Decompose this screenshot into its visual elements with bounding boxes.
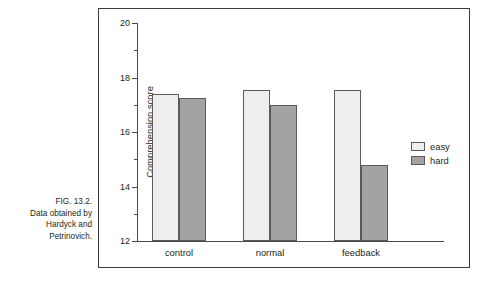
category-label-feedback: feedback [342,247,380,258]
legend-entry-easy: easy [411,141,450,152]
y-tick-label: 20 [120,18,130,28]
y-tick-label: 18 [120,73,130,83]
category-label-control: control [165,247,193,258]
y-tick-label: 12 [120,236,130,246]
y-tick-minor [134,159,138,160]
y-tick-major [132,187,138,188]
bar-feedback-easy [334,90,361,241]
chart-legend: easy hard [411,141,450,169]
legend-swatch-easy [411,142,425,151]
legend-label-hard: hard [430,156,449,165]
y-tick-major [132,241,138,242]
caption-line: Data obtained by [0,208,92,220]
y-tick-major [132,23,138,24]
legend-entry-hard: hard [411,155,450,166]
bar-normal-hard [270,105,297,241]
y-tick-label: 14 [120,182,130,192]
figure-caption: FIG. 13.2. Data obtained by Hardyck and … [0,196,92,242]
bar-feedback-hard [361,165,388,241]
y-tick-minor [134,214,138,215]
legend-swatch-hard [411,156,425,165]
bar-control-easy [152,94,179,241]
caption-line: FIG. 13.2. [0,196,92,208]
caption-line: Petrinovich. [0,231,92,243]
x-axis-line [137,241,444,242]
y-tick-major [132,132,138,133]
y-tick-minor [134,50,138,51]
y-tick-major [132,78,138,79]
category-label-normal: normal [256,247,285,258]
plot-area: Comprehension score 20 18 16 14 12 contr… [138,23,428,241]
bar-normal-easy [243,90,270,241]
bar-control-hard [179,98,206,241]
caption-line: Hardyck and [0,219,92,231]
y-tick-label: 16 [120,127,130,137]
y-tick-minor [134,105,138,106]
figure-frame: Comprehension score 20 18 16 14 12 contr… [98,8,470,268]
legend-label-easy: easy [430,142,450,151]
